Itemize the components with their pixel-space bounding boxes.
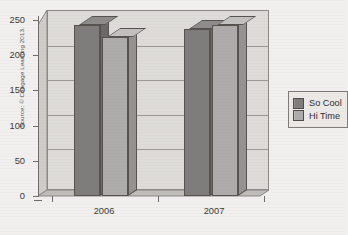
bar-front-face — [74, 25, 100, 196]
y-axis-label: 50 — [15, 156, 25, 166]
legend-label: So Cool — [309, 98, 342, 108]
y-axis-tick: 0 — [33, 196, 39, 197]
legend: So Cool Hi Time — [288, 91, 348, 128]
y-axis-tick: 50 — [33, 161, 39, 162]
plot-area: 0 50 100 150 200 250 2006 2007 — [38, 10, 278, 205]
legend-item-so-cool[interactable]: So Cool — [293, 98, 342, 109]
x-axis-line — [34, 200, 42, 201]
bar-side-face — [128, 31, 137, 196]
y-axis-line — [38, 16, 39, 196]
bar-front-face — [212, 25, 238, 196]
bar-so-cool-2006 — [74, 16, 100, 196]
x-axis-label-2007: 2007 — [204, 206, 225, 216]
y-axis-label: 250 — [9, 15, 25, 25]
x-axis-tick — [52, 196, 53, 202]
y-axis-label: 100 — [9, 121, 25, 131]
x-axis-tick — [264, 196, 265, 202]
y-axis-tick: 250 — [33, 20, 39, 21]
bar-hi-time-2007 — [212, 16, 238, 196]
legend-label: Hi Time — [309, 111, 340, 121]
y-axis-tick: 200 — [33, 55, 39, 56]
y-axis-label: 0 — [20, 191, 25, 201]
x-axis-tick — [158, 196, 159, 202]
bar-so-cool-2007 — [184, 16, 210, 196]
y-axis-label: 150 — [9, 85, 25, 95]
legend-item-hi-time[interactable]: Hi Time — [293, 110, 342, 121]
y-axis-label: 200 — [9, 50, 25, 60]
y-axis-tick: 100 — [33, 126, 39, 127]
bar-front-face — [102, 37, 128, 196]
bar-side-face — [238, 19, 247, 196]
legend-swatch-icon — [293, 110, 304, 121]
x-axis-label-2006: 2006 — [94, 206, 115, 216]
bar-hi-time-2006 — [102, 16, 128, 196]
bar-front-face — [184, 29, 210, 196]
y-axis-tick: 150 — [33, 90, 39, 91]
legend-swatch-icon — [293, 98, 304, 109]
